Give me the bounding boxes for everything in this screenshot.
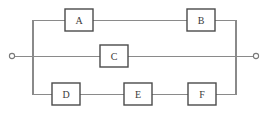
- component-block-b[interactable]: B: [187, 9, 215, 31]
- component-block-d[interactable]: D: [52, 83, 80, 105]
- component-d-label: D: [62, 89, 69, 100]
- input-terminal-icon[interactable]: [9, 53, 14, 58]
- component-block-e[interactable]: E: [124, 83, 152, 105]
- component-a-label: A: [75, 15, 83, 26]
- component-block-c[interactable]: C: [100, 45, 128, 67]
- component-block-a[interactable]: A: [65, 9, 93, 31]
- components-group: A B C D E F: [52, 9, 216, 105]
- circuit-diagram-canvas: A B C D E F: [0, 0, 268, 115]
- component-f-label: F: [199, 89, 205, 100]
- component-e-label: E: [135, 89, 141, 100]
- reliability-block-diagram: A B C D E F: [0, 0, 268, 115]
- component-block-f[interactable]: F: [188, 83, 216, 105]
- output-terminal-icon[interactable]: [253, 53, 258, 58]
- component-b-label: B: [198, 15, 205, 26]
- component-c-label: C: [111, 51, 118, 62]
